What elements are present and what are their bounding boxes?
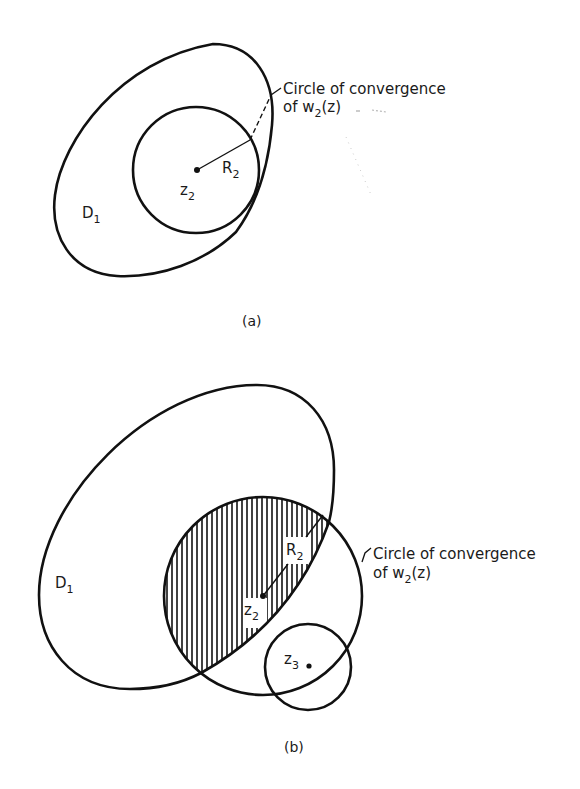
annotation-line1: Circle of convergence bbox=[283, 80, 446, 98]
scan-artifact bbox=[372, 110, 386, 112]
region-d1-boundary bbox=[54, 44, 272, 276]
annotation-line2: of w2(z) bbox=[283, 98, 341, 120]
leader-tick bbox=[271, 88, 281, 95]
analytic-continuation-figure: D1 z2 R2 Circle of convergence of w2(z) … bbox=[0, 0, 580, 789]
center-label-z2: z2 bbox=[180, 181, 195, 203]
scan-artifact bbox=[346, 137, 372, 197]
panel-b: D1 R2 z2 z3 Circle of convergence of w2(… bbox=[39, 385, 536, 755]
region-label-d1: D1 bbox=[82, 204, 101, 226]
center-point-z2 bbox=[260, 593, 266, 599]
annotation-line1: Circle of convergence bbox=[373, 545, 536, 563]
panel-a: D1 z2 R2 Circle of convergence of w2(z) … bbox=[54, 44, 446, 329]
leader-dashed-line bbox=[250, 95, 271, 140]
caption-b: (b) bbox=[284, 739, 304, 755]
center-label-z3: z3 bbox=[284, 650, 299, 672]
caption-a: (a) bbox=[242, 313, 262, 329]
region-label-d1: D1 bbox=[55, 574, 74, 596]
radius-label-r2: R2 bbox=[222, 159, 239, 181]
center-point-z3 bbox=[306, 663, 311, 668]
center-point-z2 bbox=[194, 167, 200, 173]
leader-tick bbox=[362, 548, 371, 562]
annotation-line2: of w2(z) bbox=[373, 564, 431, 586]
